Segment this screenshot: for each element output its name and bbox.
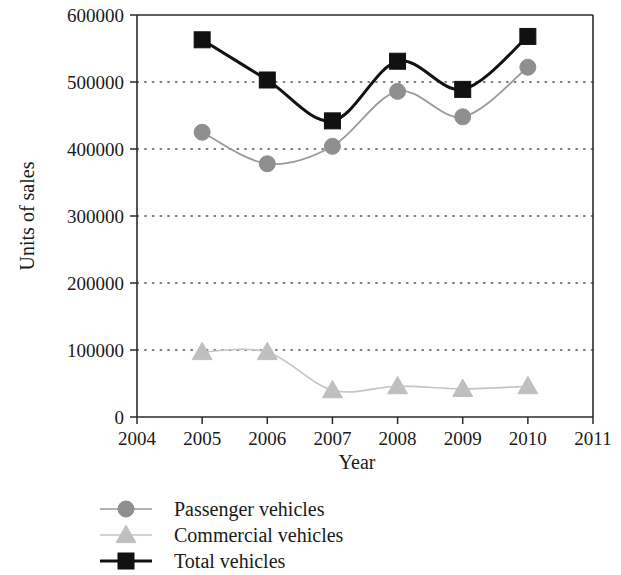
data-point-2-2006	[259, 72, 275, 88]
x-axis-title: Year	[339, 451, 376, 473]
data-point-0-2007	[324, 138, 340, 154]
legend-label-1: Commercial vehicles	[174, 524, 344, 546]
y-tick-label-0: 0	[115, 407, 125, 428]
data-point-1-2010	[518, 376, 538, 393]
legend-item-commercial-vehicles[interactable]: Commercial vehicles	[100, 524, 344, 546]
chart-figure: 0100000200000300000400000500000600000 20…	[0, 0, 621, 575]
x-axis-ticks-group: 20042005200620072008200920102011	[118, 417, 612, 449]
y-tick-label-100000: 100000	[67, 340, 124, 361]
series-line-1	[202, 349, 528, 392]
legend-label-0: Passenger vehicles	[174, 498, 325, 521]
data-point-1-2007	[322, 380, 342, 397]
data-point-0-2005	[194, 124, 210, 140]
y-tick-label-400000: 400000	[67, 139, 124, 160]
data-point-2-2010	[520, 28, 536, 44]
data-point-0-2008	[390, 83, 406, 99]
legend-marker-triangle	[116, 525, 136, 542]
x-tick-label-2011: 2011	[574, 428, 611, 449]
legend: Passenger vehiclesCommercial vehiclesTot…	[100, 498, 344, 572]
legend-item-total-vehicles[interactable]: Total vehicles	[100, 550, 286, 572]
data-series-group	[192, 28, 538, 397]
x-tick-label-2005: 2005	[183, 428, 221, 449]
x-tick-label-2007: 2007	[313, 428, 351, 449]
x-tick-label-2010: 2010	[509, 428, 547, 449]
gridlines-group	[137, 82, 593, 350]
data-point-0-2006	[259, 156, 275, 172]
x-tick-label-2009: 2009	[444, 428, 482, 449]
legend-item-passenger-vehicles[interactable]: Passenger vehicles	[100, 498, 325, 521]
y-axis-ticks-group: 0100000200000300000400000500000600000	[67, 5, 137, 428]
y-axis-title: Units of sales	[16, 161, 38, 270]
data-point-2-2009	[455, 81, 471, 97]
legend-marker-square	[118, 553, 134, 569]
x-tick-label-2006: 2006	[248, 428, 286, 449]
data-point-2-2008	[390, 53, 406, 69]
x-tick-label-2008: 2008	[379, 428, 417, 449]
series-commercial-vehicles	[192, 342, 538, 398]
series-line-2	[202, 36, 528, 121]
line-chart-svg: 0100000200000300000400000500000600000 20…	[0, 0, 621, 575]
y-tick-label-500000: 500000	[67, 72, 124, 93]
x-tick-label-2004: 2004	[118, 428, 157, 449]
data-point-2-2005	[194, 32, 210, 48]
data-point-2-2007	[324, 113, 340, 129]
data-point-0-2010	[520, 59, 536, 75]
data-point-1-2008	[388, 376, 408, 393]
y-tick-label-200000: 200000	[67, 273, 124, 294]
data-point-1-2009	[453, 379, 473, 396]
data-point-0-2009	[455, 109, 471, 125]
legend-label-2: Total vehicles	[174, 550, 286, 572]
series-total-vehicles	[194, 28, 536, 128]
legend-marker-circle	[118, 501, 134, 517]
y-tick-label-600000: 600000	[67, 5, 124, 26]
y-tick-label-300000: 300000	[67, 206, 124, 227]
